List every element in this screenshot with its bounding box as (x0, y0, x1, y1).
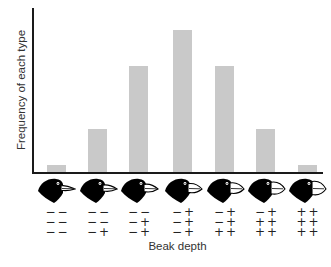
plus-allele: + (309, 227, 318, 237)
genotype-label: −+−+++ (210, 207, 240, 237)
bar (88, 129, 107, 172)
genotype-row: ++ (251, 227, 281, 237)
bar (173, 30, 192, 172)
genotype-label: −−−−−− (41, 207, 71, 237)
genotype-row: −+ (168, 227, 198, 237)
genotype-row: ++ (292, 227, 322, 237)
finch-head-icon (287, 176, 327, 204)
plus-allele: + (99, 227, 108, 237)
minus-allele: − (58, 227, 67, 237)
plus-allele: + (140, 227, 149, 237)
plus-allele: + (226, 227, 235, 237)
bar (47, 165, 66, 172)
minus-allele: − (46, 227, 55, 237)
genotype-label: −−−+−+ (124, 207, 154, 237)
finch-head-icon (205, 176, 245, 204)
genotype-label: −+−+−+ (168, 207, 198, 237)
finch-head-icon (78, 176, 118, 204)
finch-head-icon (163, 176, 203, 204)
bar (298, 165, 317, 172)
y-axis-label: Frequency of each type (15, 30, 27, 150)
beak-depth-chart: Frequency of each type −−−−−−−−−−−+−−−+−… (0, 0, 331, 267)
bar (215, 66, 234, 173)
genotype-label: −−−−−+ (83, 207, 113, 237)
bar (256, 129, 275, 172)
genotype-row: −+ (83, 227, 113, 237)
minus-allele: − (128, 227, 137, 237)
plus-allele: + (214, 227, 223, 237)
plus-allele: + (184, 227, 193, 237)
finch-head-icon (119, 176, 159, 204)
y-axis-line (32, 8, 34, 172)
minus-allele: − (172, 227, 181, 237)
genotype-row: −− (41, 227, 71, 237)
finch-head-icon (36, 176, 76, 204)
genotype-label: ++++++ (292, 207, 322, 237)
plus-allele: + (255, 227, 264, 237)
bar (129, 66, 148, 173)
minus-allele: − (87, 227, 96, 237)
finch-head-icon (246, 176, 286, 204)
genotype-label: −+++++ (251, 207, 281, 237)
x-axis-label: Beak depth (0, 240, 331, 252)
plus-allele: + (267, 227, 276, 237)
plus-allele: + (297, 227, 306, 237)
genotype-row: −+ (124, 227, 154, 237)
x-axis-line (32, 172, 323, 174)
genotype-row: ++ (210, 227, 240, 237)
